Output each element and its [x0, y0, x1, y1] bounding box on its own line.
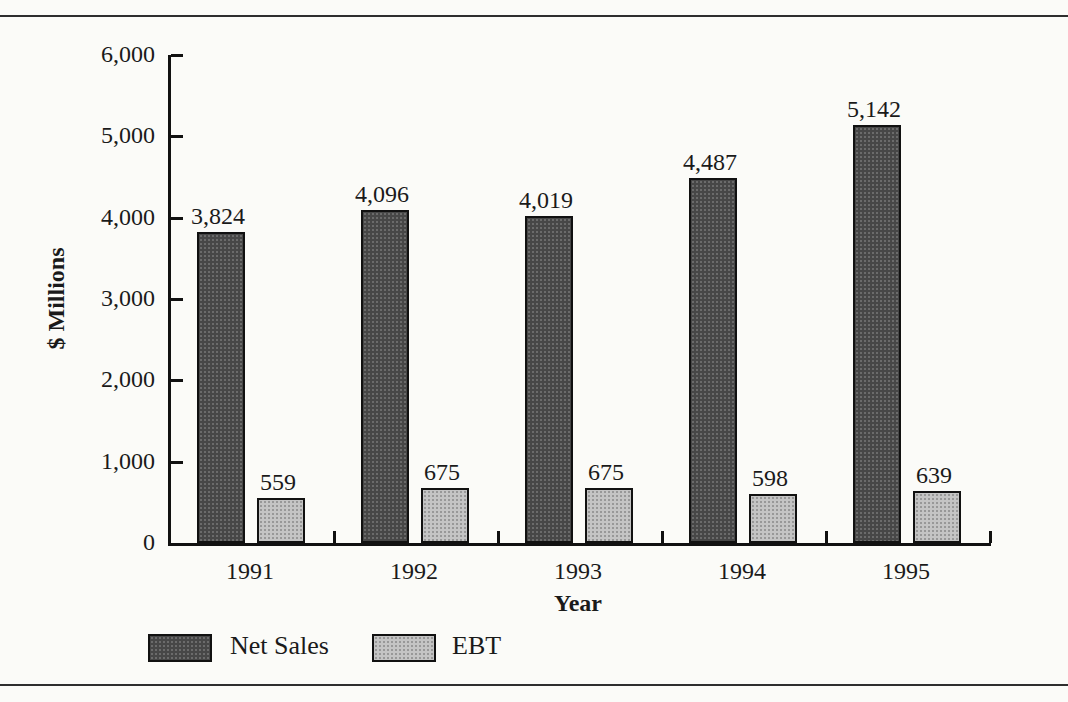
y-axis-tick: [171, 135, 183, 138]
bar-value-label: 675: [546, 458, 666, 486]
net-sales-bar: [361, 210, 409, 543]
y-tick-label: 6,000: [45, 40, 155, 68]
x-category-label: 1995: [824, 557, 988, 585]
x-category-label: 1992: [332, 557, 496, 585]
x-axis-tick: [989, 531, 992, 543]
x-axis-tick: [661, 531, 664, 543]
y-axis-tick: [171, 461, 183, 464]
y-axis-tick: [171, 298, 183, 301]
bar-value-label: 3,824: [158, 202, 278, 230]
net-sales-bar: [525, 216, 573, 543]
bottom-horizontal-rule: [0, 684, 1068, 686]
bar-value-label: 4,487: [650, 148, 770, 176]
legend-swatch-ebt: [372, 634, 436, 662]
net-sales-bar: [197, 232, 245, 543]
bar-value-label: 675: [382, 458, 502, 486]
x-axis-tick: [825, 531, 828, 543]
y-tick-label: 5,000: [45, 121, 155, 149]
x-axis-title: Year: [496, 590, 660, 617]
legend-swatch-net-sales: [148, 634, 212, 662]
ebt-bar: [913, 491, 961, 543]
y-axis-tick: [171, 54, 183, 57]
bar-value-label: 4,096: [322, 180, 442, 208]
x-category-label: 1993: [496, 557, 660, 585]
y-tick-label: 0: [45, 528, 155, 556]
legend-label-net-sales: Net Sales: [230, 630, 329, 662]
x-axis-tick: [333, 531, 336, 543]
bar-value-label: 598: [710, 464, 830, 492]
y-tick-label: 2,000: [45, 365, 155, 393]
y-axis-tick: [171, 379, 183, 382]
x-axis-tick: [497, 531, 500, 543]
bar-value-label: 5,142: [814, 95, 934, 123]
y-tick-label: 4,000: [45, 203, 155, 231]
y-tick-label: 3,000: [45, 284, 155, 312]
bar-chart-figure: $ Millions Year Net SalesEBT 01,0002,000…: [0, 0, 1068, 702]
legend-label-ebt: EBT: [452, 630, 501, 662]
ebt-bar: [257, 498, 305, 543]
bar-value-label: 559: [218, 468, 338, 496]
x-category-label: 1994: [660, 557, 824, 585]
bar-value-label: 4,019: [486, 186, 606, 214]
top-horizontal-rule: [0, 15, 1068, 17]
ebt-bar: [749, 494, 797, 543]
ebt-bar: [421, 488, 469, 543]
x-category-label: 1991: [168, 557, 332, 585]
y-tick-label: 1,000: [45, 447, 155, 475]
bar-value-label: 639: [874, 461, 994, 489]
ebt-bar: [585, 488, 633, 543]
